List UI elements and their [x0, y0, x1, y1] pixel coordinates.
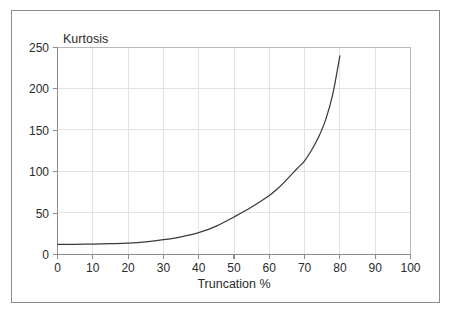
grid-lines: [58, 48, 411, 255]
y-axis-tick-labels: 250 200 150 100 50 0: [29, 41, 49, 262]
x-tick-label-60: 60: [263, 261, 277, 275]
x-axis-ticks: [58, 254, 411, 258]
y-tick-label-0: 0: [42, 248, 49, 262]
x-tick-label-50: 50: [227, 261, 241, 275]
x-tick-label-0: 0: [54, 261, 61, 275]
y-axis-ticks: [53, 48, 58, 255]
chart-area: 250 200 150 100 50 0 0 10 20 30 40 50 60…: [0, 0, 459, 314]
x-tick-label-70: 70: [298, 261, 312, 275]
kurtosis-truncation-line-chart: 250 200 150 100 50 0 0 10 20 30 40 50 60…: [0, 0, 459, 314]
y-tick-label-250: 250: [29, 41, 49, 55]
y-tick-label-150: 150: [29, 124, 49, 138]
x-tick-label-30: 30: [157, 261, 171, 275]
x-tick-label-100: 100: [400, 261, 420, 275]
x-axis-title: Truncation %: [197, 277, 270, 291]
x-tick-label-10: 10: [86, 261, 100, 275]
y-axis-title: Kurtosis: [63, 32, 108, 46]
x-tick-label-80: 80: [333, 261, 347, 275]
y-tick-label-50: 50: [36, 207, 50, 221]
x-tick-label-90: 90: [369, 261, 383, 275]
x-tick-label-40: 40: [192, 261, 206, 275]
figure-root: 250 200 150 100 50 0 0 10 20 30 40 50 60…: [0, 0, 459, 314]
x-axis-tick-labels: 0 10 20 30 40 50 60 70 80 90 100: [54, 261, 421, 275]
y-tick-label-200: 200: [29, 82, 49, 96]
x-tick-label-20: 20: [121, 261, 135, 275]
y-tick-label-100: 100: [29, 165, 49, 179]
